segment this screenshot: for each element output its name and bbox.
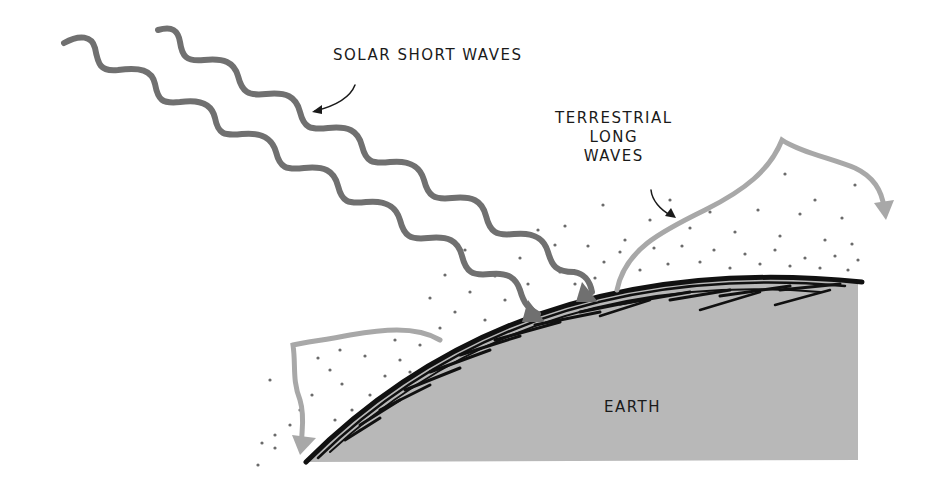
solar-short-waves-label: SOLAR SHORT WAVES [333,46,522,65]
solar-wave-1 [64,37,538,314]
terrestrial-long-waves-label: TERRESTRIAL LONG WAVES [555,109,673,166]
solar-short-waves [64,29,592,315]
terrestrial-arrow-right [874,200,894,220]
terrestrial-arrow-left [292,435,316,455]
earth-label: EARTH [604,398,661,417]
solar-wave-2 [158,29,592,293]
greenhouse-diagram [0,0,943,494]
terrestrial-label-line-3: WAVES [555,147,673,166]
terrestrial-label-line-2: LONG [555,128,673,147]
terrestrial-label-line-1: TERRESTRIAL [555,109,673,128]
